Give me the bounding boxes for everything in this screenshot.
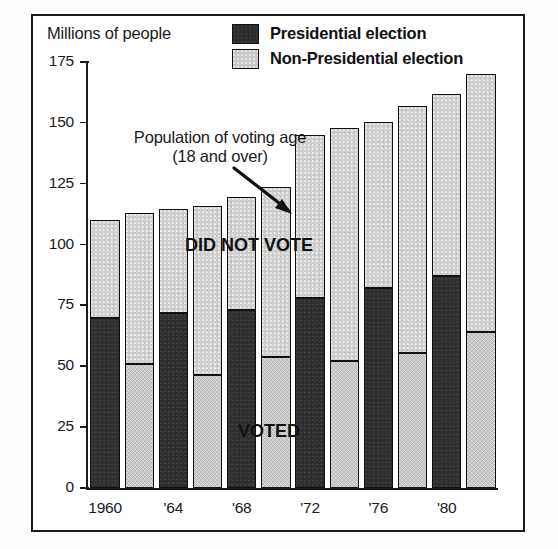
bar-7 (330, 128, 359, 488)
x-tick-label-64: '64 (143, 499, 203, 517)
bar-10 (432, 94, 461, 488)
x-tick-label-80: '80 (417, 499, 477, 517)
bar-11 (466, 74, 495, 488)
bar-segment-voted-8 (364, 288, 393, 488)
bar-segment-voted-9 (398, 353, 427, 488)
bar-segment-voted-10 (432, 276, 461, 488)
x-tick-label-72: '72 (280, 499, 340, 517)
annotation-arrow-icon (230, 166, 310, 222)
bar-0 (90, 220, 119, 488)
x-tick-label-76: '76 (348, 499, 408, 517)
bar-segment-voted-11 (466, 332, 495, 488)
bar-8 (364, 122, 393, 488)
y-tick-label-150: 150 (28, 113, 74, 131)
y-tick-label-125: 125 (28, 174, 74, 192)
population-annotation-line2: (18 and over) (96, 147, 344, 166)
y-tick-100 (80, 244, 88, 246)
population-annotation-line1: Population of voting age (96, 128, 344, 147)
legend-swatch-presidential-icon (232, 24, 259, 44)
bar-segment-did-not-vote-11 (466, 74, 495, 332)
bar-1 (125, 213, 154, 488)
y-tick-label-0: 0 (28, 478, 74, 496)
legend-item-presidential: Presidential election (232, 21, 522, 46)
bar-2 (159, 209, 188, 488)
voted-label: VOTED (238, 421, 300, 442)
y-tick-label-175: 175 (28, 52, 74, 70)
bar-segment-voted-3 (193, 375, 222, 488)
x-axis-line (86, 488, 498, 490)
bar-segment-voted-7 (330, 361, 359, 488)
legend-label-presidential: Presidential election (270, 24, 426, 43)
y-tick-label-100: 100 (28, 235, 74, 253)
bar-segment-voted-4 (227, 310, 256, 488)
bar-segment-did-not-vote-10 (432, 94, 461, 277)
bar-segment-voted-6 (295, 298, 324, 488)
bar-segment-did-not-vote-2 (159, 209, 188, 312)
y-tick-25 (80, 426, 88, 428)
y-tick-label-75: 75 (28, 295, 74, 313)
y-tick-125 (80, 183, 88, 185)
population-annotation: Population of voting age (18 and over) (96, 128, 344, 167)
bar-9 (398, 106, 427, 488)
bar-segment-did-not-vote-0 (90, 220, 119, 317)
bar-segment-voted-0 (90, 318, 119, 488)
y-tick-label-25: 25 (28, 417, 74, 435)
bar-segment-did-not-vote-3 (193, 206, 222, 375)
x-tick-label-1960: 1960 (75, 499, 135, 517)
x-tick-label-68: '68 (212, 499, 272, 517)
bar-segment-did-not-vote-1 (125, 213, 154, 364)
bar-segment-voted-2 (159, 313, 188, 488)
bar-5 (261, 187, 290, 488)
y-tick-75 (80, 304, 88, 306)
y-tick-150 (80, 122, 88, 124)
y-tick-label-50: 50 (28, 356, 74, 374)
chart-figure: Millions of people Presidential election… (0, 0, 558, 549)
bar-segment-voted-1 (125, 364, 154, 488)
y-tick-50 (80, 365, 88, 367)
bar-segment-did-not-vote-8 (364, 122, 393, 289)
bar-segment-did-not-vote-9 (398, 106, 427, 353)
y-axis-title: Millions of people (47, 24, 171, 43)
did-not-vote-label: DID NOT VOTE (185, 235, 313, 256)
